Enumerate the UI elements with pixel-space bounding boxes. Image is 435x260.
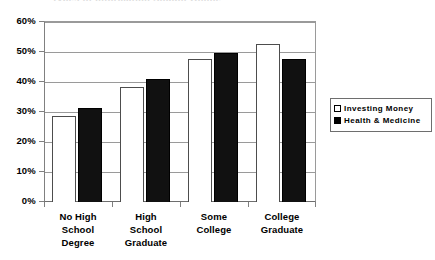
x-tick-label: No High School Degree [44, 210, 112, 249]
bar-investing-money[interactable] [52, 116, 76, 202]
legend-item-health-medicine[interactable]: Health & Medicine [334, 115, 428, 126]
y-axis: 60% 50% 40% 30% 20% 10% 0% [0, 0, 40, 260]
y-tick-label: 40% [0, 76, 36, 86]
x-tick-label-line: School [44, 223, 112, 236]
y-tick-label: 20% [0, 136, 36, 146]
x-tick-label-line: Graduate [112, 236, 180, 249]
bar-health-medicine[interactable] [78, 108, 102, 202]
x-tick-label-line: Graduate [248, 223, 316, 236]
x-tick-mark [180, 202, 181, 207]
y-tick-label: 0% [0, 196, 36, 206]
legend-item-investing-money[interactable]: Investing Money [334, 103, 428, 114]
x-tick-label-line: Degree [44, 236, 112, 249]
chart-legend: Investing Money Health & Medicine [330, 98, 432, 132]
bar-group [112, 21, 180, 202]
legend-label: Investing Money [344, 105, 413, 113]
y-tick-label: 10% [0, 166, 36, 176]
bar-investing-money[interactable] [120, 87, 144, 202]
x-tick-mark [112, 202, 113, 207]
x-tick-mark [248, 202, 249, 207]
bar-group [180, 21, 248, 202]
x-tick-label-line: Some [180, 210, 248, 223]
bar-health-medicine[interactable] [214, 53, 238, 202]
x-tick-label-line: School [112, 223, 180, 236]
bar-health-medicine[interactable] [282, 59, 306, 202]
x-tick-label-line: No High [44, 210, 112, 223]
bar-health-medicine[interactable] [146, 79, 170, 202]
x-tick-mark [315, 202, 316, 207]
x-axis [44, 202, 316, 208]
x-tick-label-line: College [248, 210, 316, 223]
x-tick-label: College Graduate [248, 210, 316, 236]
x-tick-label: High School Graduate [112, 210, 180, 249]
bar-chart: 60% 50% 40% 30% 20% 10% 0% [0, 0, 435, 260]
bar-investing-money[interactable] [256, 44, 280, 202]
legend-swatch-icon [334, 105, 341, 112]
y-tick-label: 60% [0, 16, 36, 26]
y-tick-label: 50% [0, 46, 36, 56]
x-tick-label: Some College [180, 210, 248, 236]
y-tick-label: 30% [0, 106, 36, 116]
bar-series-container [44, 21, 316, 202]
x-tick-label-line: College [180, 223, 248, 236]
legend-label: Health & Medicine [344, 117, 421, 125]
bar-group [44, 21, 112, 202]
bar-group [248, 21, 316, 202]
bar-investing-money[interactable] [188, 59, 212, 202]
x-axis-labels: No High School Degree High School Gradua… [44, 210, 316, 258]
x-tick-label-line: High [112, 210, 180, 223]
legend-swatch-icon [334, 117, 341, 124]
x-tick-mark [44, 202, 45, 207]
